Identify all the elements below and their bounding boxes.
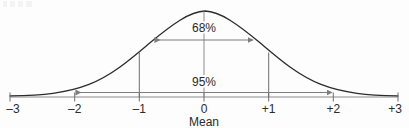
tick-label--3: –3 <box>6 102 20 116</box>
chart-canvas: 68% 68% 95% 95% –3 –2 –1 0 +1 +2 +3 Mean <box>0 0 409 128</box>
tick-label-0: 0 <box>201 102 208 116</box>
normal-distribution-figure: 68% 68% 95% 95% –3 –2 –1 0 +1 +2 +3 Mean <box>0 0 409 128</box>
tick-label-plus-2: +2 <box>326 102 340 116</box>
x-axis-title: Mean <box>189 115 219 128</box>
inner-band-label: 68% <box>192 21 216 35</box>
tick-label--2: –2 <box>68 102 82 116</box>
tick-label-plus-3: +3 <box>388 102 402 116</box>
outer-band-label: 95% <box>192 75 216 89</box>
tick-label--1: –1 <box>133 102 147 116</box>
tick-label-plus-1: +1 <box>262 102 276 116</box>
x-axis-tick-labels-group: –3 –2 –1 0 +1 +2 +3 <box>6 102 402 116</box>
